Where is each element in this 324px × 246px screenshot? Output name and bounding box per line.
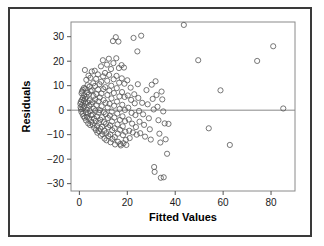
data-point	[114, 99, 119, 104]
data-point	[125, 93, 130, 98]
y-axis-tick-label: 30	[53, 31, 65, 42]
data-point	[163, 137, 168, 142]
data-point	[98, 64, 103, 69]
data-point	[109, 83, 114, 88]
data-point	[164, 151, 169, 156]
data-point	[115, 131, 120, 136]
y-axis-tick-label: 0	[58, 105, 64, 116]
data-point	[111, 77, 116, 82]
data-points-group	[78, 22, 286, 180]
data-point	[95, 72, 100, 77]
data-point	[100, 58, 105, 63]
data-point	[132, 101, 137, 106]
data-point	[161, 109, 166, 114]
data-point	[125, 78, 130, 83]
data-point	[120, 124, 125, 129]
data-point	[108, 66, 113, 71]
y-axis-tick-label: 10	[53, 80, 65, 91]
data-point	[135, 49, 140, 54]
data-point	[137, 119, 142, 124]
data-point	[152, 164, 157, 169]
data-point	[142, 134, 147, 139]
data-point	[255, 58, 260, 63]
y-axis-tick-label: 20	[53, 56, 65, 67]
data-point	[158, 140, 163, 145]
data-point	[114, 56, 119, 61]
data-point	[155, 104, 160, 109]
data-point	[144, 87, 149, 92]
data-point	[145, 102, 150, 107]
y-axis-tick-label: −30	[47, 178, 64, 189]
data-point	[104, 62, 109, 67]
data-point	[105, 78, 110, 83]
data-point	[181, 22, 186, 27]
x-axis-tick-label: 0	[77, 197, 83, 208]
residuals-vs-fitted-scatter-plot: 020406080−30−20−100102030Fitted ValuesRe…	[0, 0, 324, 246]
y-axis-title: Residuals	[20, 81, 32, 133]
data-point	[154, 92, 159, 97]
data-point	[160, 97, 165, 102]
data-point	[148, 137, 153, 142]
data-point	[109, 96, 114, 101]
data-point	[136, 95, 141, 100]
x-axis-tick-label: 20	[122, 197, 134, 208]
data-point	[111, 90, 116, 95]
data-point	[122, 94, 127, 99]
data-point	[218, 88, 223, 93]
data-point	[114, 86, 119, 91]
data-point	[141, 112, 146, 117]
data-point	[133, 124, 138, 129]
y-axis-tick-label: −20	[47, 154, 64, 165]
data-point	[146, 116, 151, 121]
data-point	[141, 122, 146, 127]
data-point	[114, 73, 119, 78]
data-point	[111, 61, 116, 66]
data-point	[128, 85, 133, 90]
data-point	[139, 33, 144, 38]
data-point	[82, 67, 87, 72]
data-point	[153, 79, 158, 84]
data-point	[135, 82, 140, 87]
data-point	[116, 39, 121, 44]
data-point	[157, 131, 162, 136]
data-point	[271, 44, 276, 49]
data-point	[122, 81, 127, 86]
data-point	[147, 127, 152, 132]
data-point	[119, 76, 124, 81]
x-axis-title: Fitted Values	[149, 211, 217, 223]
data-point	[117, 117, 122, 122]
x-axis-tick-label: 80	[265, 197, 277, 208]
data-point	[196, 58, 201, 63]
y-axis-tick-label: −10	[47, 129, 64, 140]
data-point	[156, 118, 161, 123]
x-axis-tick-label: 40	[170, 197, 182, 208]
data-point	[159, 89, 164, 94]
data-point	[131, 35, 136, 40]
figure-root: 020406080−30−20−100102030Fitted ValuesRe…	[0, 0, 324, 246]
data-point	[106, 56, 111, 61]
data-point	[206, 126, 211, 131]
x-axis-tick-label: 60	[218, 197, 230, 208]
data-point	[227, 142, 232, 147]
data-point	[166, 121, 171, 126]
data-point	[140, 100, 145, 105]
data-point	[120, 114, 125, 119]
data-point	[118, 127, 123, 132]
data-point	[120, 102, 125, 107]
data-point	[119, 89, 124, 94]
data-point	[152, 169, 157, 174]
